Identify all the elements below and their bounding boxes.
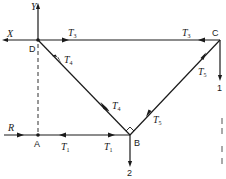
label-t5-lower: T5	[153, 114, 162, 126]
reaction-r-arrowhead	[17, 133, 24, 138]
right-angle-mark	[126, 127, 134, 131]
label-t4-upper: T4	[64, 54, 73, 66]
load-2-label: 2	[127, 168, 132, 178]
node-d-dot	[36, 38, 40, 42]
member-cb	[130, 40, 220, 135]
arrow-t1-a	[59, 133, 66, 138]
label-t3-left: T3	[68, 27, 77, 39]
node-a-dot	[36, 133, 40, 137]
arrow-t3-d	[62, 38, 69, 43]
arrow-t3-c	[198, 38, 205, 43]
node-a-label: A	[34, 139, 40, 149]
member-db	[38, 40, 130, 135]
arrow-t1-b	[108, 133, 115, 138]
x-axis-label: X	[6, 28, 14, 39]
load-1-label: 1	[217, 83, 222, 93]
label-t1-right: T1	[104, 141, 113, 153]
node-b-label: B	[134, 138, 140, 148]
label-t4-lower: T4	[112, 100, 121, 112]
label-t3-right: T3	[182, 27, 191, 39]
label-t5-upper: T5	[198, 66, 207, 78]
label-t1-left: T1	[61, 141, 70, 153]
force-diagram: Y X D C B A R 1 2 T3 T3 T4 T4 T5 T5 T1 T…	[0, 0, 226, 179]
node-c-label: C	[212, 28, 219, 38]
node-d-label: D	[29, 44, 36, 54]
y-axis-label: Y	[31, 1, 38, 12]
reaction-r-label: R	[7, 122, 14, 133]
